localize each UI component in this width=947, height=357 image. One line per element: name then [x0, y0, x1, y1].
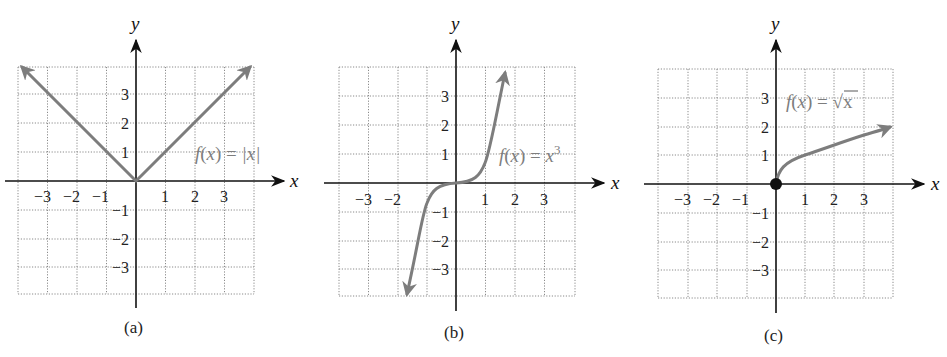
function-label: f(x) = |x|: [195, 143, 260, 165]
svg-text:−3: −3: [112, 259, 129, 276]
svg-text:3: 3: [761, 90, 769, 107]
svg-text:2: 2: [830, 191, 838, 208]
svg-text:−2: −2: [703, 191, 720, 208]
svg-text:1: 1: [161, 188, 169, 205]
y-axis-label: y: [449, 13, 460, 34]
svg-text:3: 3: [441, 88, 449, 105]
svg-text:−1: −1: [112, 202, 129, 219]
svg-text:−3: −3: [355, 191, 372, 208]
svg-text:−2: −2: [384, 191, 401, 208]
x-axis-label: x: [610, 172, 620, 193]
svg-text:−2: −2: [752, 234, 769, 251]
caption-a: (a): [124, 318, 143, 337]
svg-text:2: 2: [761, 119, 769, 136]
x-tick-labels: −3 −2 −1 1 2 3: [34, 188, 228, 205]
svg-text:1: 1: [761, 147, 769, 164]
svg-text:−1: −1: [752, 205, 769, 222]
svg-text:1: 1: [121, 144, 129, 161]
svg-text:−3: −3: [674, 191, 691, 208]
panel-c-square-root: x y −3 −2 −1 1 2 3 3 2 1 −1 −2 −3 f(x) =…: [644, 13, 940, 345]
svg-text:2: 2: [191, 188, 199, 205]
svg-text:−2: −2: [112, 231, 129, 248]
svg-text:3: 3: [860, 191, 868, 208]
panel-a-absolute-value: x y −3 −2 −1 1 2 3 3 2 1 −1 −2 −3 f(x) =…: [5, 13, 299, 337]
svg-text:2: 2: [121, 115, 129, 132]
panel-b-cubic: x y −3 −2 1 2 3 3 2 1 −1 −2 −3 f(x) = x3…: [324, 13, 620, 342]
svg-text:−1: −1: [432, 204, 449, 221]
y-axis-label: y: [129, 13, 140, 34]
svg-text:−3: −3: [432, 261, 449, 278]
y-axis-label: y: [769, 13, 780, 34]
svg-text:2: 2: [511, 191, 519, 208]
svg-text:3: 3: [220, 188, 228, 205]
svg-text:3: 3: [540, 191, 548, 208]
closed-endpoint-dot: [770, 178, 782, 190]
svg-text:1: 1: [441, 146, 449, 163]
x-tick-labels: −3 −2 1 2 3: [355, 191, 548, 208]
function-label: f(x) = √x: [786, 91, 853, 113]
svg-text:−1: −1: [732, 191, 749, 208]
svg-text:−3: −3: [34, 188, 51, 205]
x-axis-label: x: [289, 170, 299, 191]
svg-text:−2: −2: [63, 188, 80, 205]
svg-text:−2: −2: [432, 233, 449, 250]
svg-text:1: 1: [481, 191, 489, 208]
svg-text:2: 2: [441, 117, 449, 134]
svg-text:−3: −3: [752, 262, 769, 279]
svg-text:3: 3: [121, 86, 129, 103]
x-axis-label: x: [930, 173, 940, 194]
caption-c: (c): [764, 326, 783, 345]
svg-text:1: 1: [801, 191, 809, 208]
x-tick-labels: −3 −2 −1 1 2 3: [674, 191, 868, 208]
figure: x y −3 −2 −1 1 2 3 3 2 1 −1 −2 −3 f(x) =…: [0, 0, 947, 357]
svg-text:−1: −1: [92, 188, 109, 205]
function-label: f(x) = x3: [499, 142, 561, 167]
caption-b: (b): [444, 323, 464, 342]
